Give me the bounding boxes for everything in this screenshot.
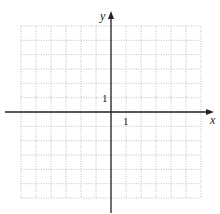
x-tick-label: 1 bbox=[123, 115, 129, 127]
y-tick-label: 1 bbox=[102, 92, 108, 104]
x-axis-label: x bbox=[209, 113, 216, 127]
y-axis-arrow-icon bbox=[108, 11, 114, 19]
y-axis-label: y bbox=[99, 9, 106, 23]
coordinate-plane: x y 1 1 bbox=[0, 0, 220, 214]
